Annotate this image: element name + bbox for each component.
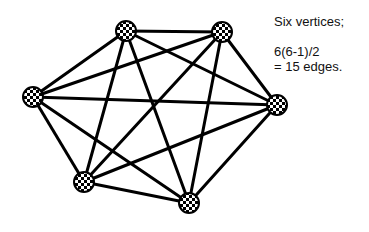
edge-v2-v4	[222, 32, 277, 105]
vertex-left	[23, 87, 43, 107]
edge-v2-v6	[189, 32, 222, 203]
edge-v1-v2	[126, 31, 222, 32]
vertex-bottom-right	[179, 193, 199, 213]
edge-v1-v3	[33, 31, 126, 97]
vertex-right	[267, 95, 287, 115]
edge-v4-v5	[84, 105, 277, 182]
edge-v3-v5	[33, 97, 84, 182]
vertex-top-left	[116, 21, 136, 41]
caption: Six vertices; 6(6-1)/2 = 15 edges.	[274, 14, 344, 74]
caption-spacer	[274, 29, 344, 44]
vertex-bottom-left	[74, 172, 94, 192]
vertex-top-right	[212, 22, 232, 42]
caption-line-vertices: Six vertices;	[274, 14, 344, 29]
caption-line-edges: = 15 edges.	[274, 59, 344, 74]
edges	[33, 31, 277, 203]
caption-line-formula: 6(6-1)/2	[274, 44, 344, 59]
edge-v4-v6	[189, 105, 277, 203]
